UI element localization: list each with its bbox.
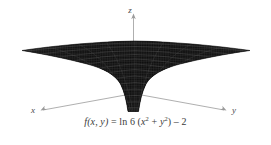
caption-close-paren: ): [168, 116, 171, 127]
caption-plus: +: [152, 116, 158, 127]
caption-constant: 2: [182, 116, 187, 127]
caption-ln: ln: [119, 116, 127, 127]
figure-caption: f(x, y) = ln 6 (x2 + y2) – 2: [0, 116, 271, 127]
z-axis-label: z: [127, 5, 132, 15]
x-axis-label: x: [30, 105, 35, 115]
caption-x-exponent: 2: [146, 115, 149, 122]
caption-minus: –: [174, 116, 179, 127]
y-axis-label: y: [231, 105, 236, 115]
y-axis-line: [136, 94, 224, 110]
x-axis-line: [43, 94, 131, 110]
x-axis-arrowhead: [41, 106, 47, 111]
caption-coefficient: 6: [130, 116, 135, 127]
surface-mesh: [18, 38, 255, 118]
surface-plot-figure: z x y f(x, y) = ln 6 (x2 + y2) – 2: [0, 0, 271, 145]
caption-function: f(x, y): [84, 116, 108, 127]
y-axis-arrowhead: [220, 106, 226, 111]
caption-equals: =: [111, 116, 117, 127]
